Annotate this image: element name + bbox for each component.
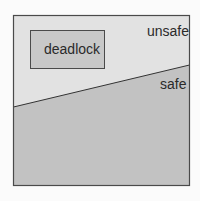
safe-label: safe bbox=[160, 76, 186, 92]
deadlock-label: deadlock bbox=[44, 41, 100, 57]
unsafe-label: unsafe bbox=[147, 23, 189, 39]
